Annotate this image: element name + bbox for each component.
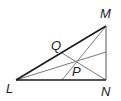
label-m: M [100, 6, 111, 21]
label-n: N [101, 84, 111, 99]
label-l: L [6, 81, 13, 96]
segment-q-to-n [62, 53, 106, 80]
label-q: Q [51, 38, 61, 53]
cevian-l-to-mn [16, 52, 106, 80]
triangle-diagram: M N L Q P [0, 0, 121, 101]
label-p: P [72, 64, 81, 79]
cevian-m-to-base [62, 26, 106, 80]
